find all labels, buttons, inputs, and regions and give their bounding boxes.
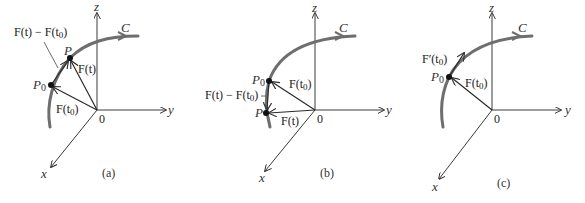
vector-function-figure: z y x 0 C P P0 F(t) F(t0) F(t) − F(t0) (…	[0, 0, 585, 203]
vector-f-t0-label: F(t0)	[465, 76, 488, 91]
vector-f-t0-label: F(t0)	[56, 102, 79, 117]
vector-f-t0-label: F(t0)	[289, 77, 312, 92]
panel-a-caption: (a)	[102, 166, 115, 180]
vector-difference-label: F(t) − F(t0)	[14, 25, 67, 40]
origin-label: 0	[494, 112, 500, 126]
point-p0	[266, 78, 272, 84]
y-axis-label: y	[166, 102, 174, 117]
vector-tangent-f-prime	[449, 53, 464, 77]
panel-c-caption: (c)	[497, 176, 510, 190]
vector-f-t	[269, 110, 315, 113]
vector-f-t-label: F(t)	[281, 114, 299, 128]
x-axis-label: x	[258, 170, 265, 185]
z-axis-label: z	[93, 0, 99, 14]
point-p-label: P	[63, 43, 72, 58]
y-axis-label: y	[384, 102, 392, 117]
point-p	[263, 110, 269, 116]
vector-f-t-label: F(t)	[78, 62, 96, 76]
x-axis	[51, 110, 97, 167]
curve-label: C	[518, 20, 527, 35]
panel-a: z y x 0 C P P0 F(t) F(t0) F(t) − F(t0) (…	[14, 0, 174, 181]
origin-label: 0	[99, 112, 105, 126]
x-axis	[439, 110, 492, 179]
y-axis-label: y	[563, 102, 571, 117]
point-p0-label: P0	[251, 72, 265, 88]
x-axis-label: x	[40, 166, 47, 181]
point-p-label: P	[254, 105, 263, 120]
vector-difference	[51, 61, 68, 85]
point-p0	[446, 74, 452, 80]
point-p0-label: P0	[430, 69, 444, 85]
vector-tangent-label: F′(t0)	[422, 52, 447, 67]
origin-label: 0	[317, 112, 323, 126]
vector-difference-label: F(t) − F(t0)	[205, 88, 258, 103]
x-axis-label: x	[431, 179, 438, 194]
curve-label: C	[339, 20, 348, 35]
difference-leader-line	[44, 42, 58, 68]
panel-c: z y x 0 C P0 F(t0) F′(t0) (c)	[422, 0, 571, 194]
z-axis-label: z	[311, 0, 317, 15]
point-p0	[48, 82, 54, 88]
panel-b: z y x 0 C P0 P F(t0) F(t) F(t) − F(t0) (…	[205, 0, 392, 185]
z-axis-label: z	[488, 0, 494, 15]
point-p0-label: P0	[32, 77, 46, 93]
panel-b-caption: (b)	[320, 166, 334, 180]
curve-label: C	[121, 20, 130, 35]
